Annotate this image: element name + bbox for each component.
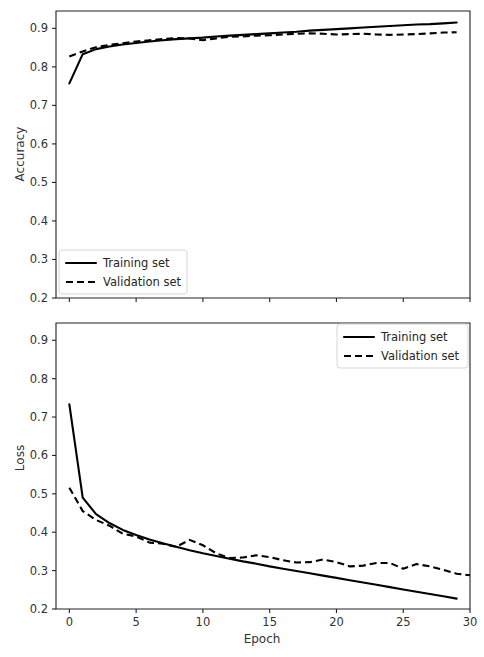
loss-y-ticks: 0.20.30.40.50.60.70.80.9	[30, 333, 56, 616]
accuracy-plot-svg: 0.20.30.40.50.60.70.80.9 Accuracy Traini…	[0, 0, 484, 318]
loss-panel: 0.20.30.40.50.60.70.80.9 051015202530 Lo…	[0, 318, 484, 657]
y-tick-label: 0.4	[30, 525, 48, 539]
loss-legend-training-label: Training set	[380, 330, 448, 344]
x-tick-label: 5	[132, 615, 139, 629]
y-tick-label: 0.5	[30, 487, 48, 501]
loss-legend: Training set Validation set	[337, 324, 468, 368]
y-tick-label: 0.9	[30, 333, 48, 347]
loss-legend-validation-label: Validation set	[381, 349, 460, 363]
accuracy-y-axis-label: Accuracy	[13, 127, 27, 182]
training-curves-figure: 0.20.30.40.50.60.70.80.9 Accuracy Traini…	[0, 0, 484, 657]
y-tick-label: 0.6	[30, 137, 48, 151]
y-tick-label: 0.3	[30, 564, 48, 578]
y-tick-label: 0.3	[30, 252, 48, 266]
accuracy-training-line	[69, 23, 456, 84]
y-tick-label: 0.2	[30, 602, 48, 616]
loss-x-axis-label: Epoch	[244, 632, 281, 646]
y-tick-label: 0.5	[30, 175, 48, 189]
accuracy-legend-validation-label: Validation set	[103, 275, 182, 289]
x-tick-label: 0	[66, 615, 73, 629]
accuracy-y-ticks: 0.20.30.40.50.60.70.80.9	[30, 21, 56, 305]
accuracy-x-ticks	[69, 298, 470, 302]
accuracy-legend-training-label: Training set	[102, 256, 170, 270]
loss-training-line	[69, 404, 456, 598]
y-tick-label: 0.8	[30, 372, 48, 386]
y-tick-label: 0.9	[30, 21, 48, 35]
y-tick-label: 0.4	[30, 214, 48, 228]
x-tick-label: 10	[196, 615, 211, 629]
x-tick-label: 20	[329, 615, 344, 629]
y-tick-label: 0.6	[30, 448, 48, 462]
y-tick-label: 0.7	[30, 98, 48, 112]
accuracy-panel: 0.20.30.40.50.60.70.80.9 Accuracy Traini…	[0, 0, 484, 318]
y-tick-label: 0.8	[30, 60, 48, 74]
loss-y-axis-label: Loss	[13, 445, 27, 471]
x-tick-label: 15	[262, 615, 277, 629]
loss-plot-svg: 0.20.30.40.50.60.70.80.9 051015202530 Lo…	[0, 318, 484, 657]
x-tick-label: 30	[463, 615, 478, 629]
y-tick-label: 0.2	[30, 291, 48, 305]
loss-x-ticks: 051015202530	[66, 609, 478, 629]
y-tick-label: 0.7	[30, 410, 48, 424]
accuracy-legend: Training set Validation set	[59, 250, 187, 294]
x-tick-label: 25	[396, 615, 411, 629]
